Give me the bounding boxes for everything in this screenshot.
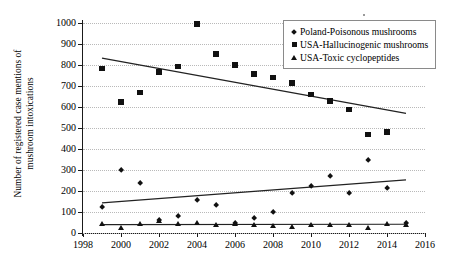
y-tick-label: 300	[36, 165, 76, 175]
y-tick-label: 200	[36, 186, 76, 196]
x-tick-label: 2016	[402, 239, 448, 251]
legend-item-2[interactable]: USA-Toxic cyclopeptides	[289, 51, 428, 64]
square-marker-icon	[289, 39, 300, 50]
y-tick-label: 900	[36, 39, 76, 49]
y-tick-label: 1000	[36, 18, 76, 28]
triangle-marker-icon	[289, 52, 300, 63]
y-tick-label: 0	[36, 228, 76, 238]
y-tick-label: 400	[36, 144, 76, 154]
y-tick-label: 600	[36, 102, 76, 112]
legend-label: USA-Hallucinogenic mushrooms	[300, 39, 428, 50]
legend-item-1[interactable]: USA-Hallucinogenic mushrooms	[289, 38, 428, 51]
legend-label: USA-Toxic cyclopeptides	[300, 52, 399, 63]
trend-line	[102, 180, 406, 203]
legend-label: Poland-Poisonous mushrooms	[300, 26, 416, 37]
legend-item-0[interactable]: Poland-Poisonous mushrooms	[289, 25, 428, 38]
y-tick-label: 100	[36, 207, 76, 217]
scatter-chart: Number of registered case mentions of mu…	[0, 0, 468, 264]
chart-legend: Poland-Poisonous mushroomsUSA-Hallucinog…	[283, 20, 436, 69]
y-tick-label: 800	[36, 60, 76, 70]
gridline	[83, 233, 425, 234]
image-speck	[363, 14, 365, 16]
y-tick-label: 700	[36, 81, 76, 91]
y-tick-label: 500	[36, 123, 76, 133]
diamond-marker-icon	[289, 26, 300, 37]
